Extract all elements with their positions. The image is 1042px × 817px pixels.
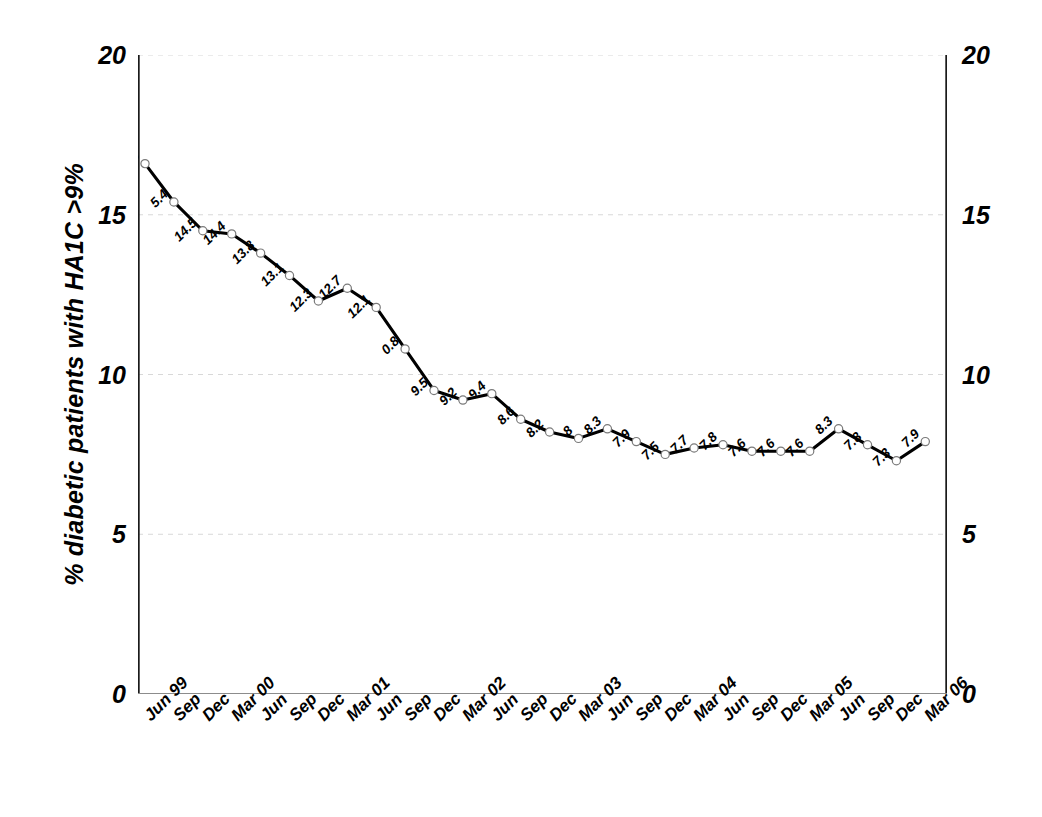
data-point-label: 12.3 [286,285,316,315]
data-point-label: 9.2 [436,384,460,408]
y-tick-label-right-20: 20 [962,43,990,68]
data-point-label: 8.2 [523,416,547,440]
data-point-marker [835,425,843,433]
data-point-marker [488,390,496,398]
y-tick-label-left-10: 10 [78,363,126,388]
data-point-label: 14.5 [171,215,201,245]
data-point-marker [401,345,409,353]
x-axis-label: Sep [748,690,782,724]
data-point-label: 5.4 [147,186,171,210]
x-axis-label: Sep [401,690,435,724]
data-point-label: 7.6 [725,435,749,459]
data-point-marker [863,441,871,449]
data-point-marker [141,160,149,168]
data-point-marker [603,425,611,433]
plot-area: 16.65.414.514.413.813.112.312.712.10.89.… [138,55,947,694]
data-point-marker [574,434,582,442]
data-point-label: 7.8 [696,429,720,453]
gridlines [138,55,947,694]
data-point-marker [343,284,351,292]
x-axis-label: Dec [777,690,811,724]
data-point-marker [459,396,467,404]
data-point-marker [228,230,236,238]
x-axis-label: Dec [199,690,233,724]
y-tick-label-right-10: 10 [962,363,990,388]
data-point-label: 7.9 [610,426,634,450]
data-point-marker [170,198,178,206]
x-axis-label: Sep [517,690,551,724]
x-axis-label: Dec [546,690,580,724]
data-point-marker [632,437,640,445]
data-point-label: 8.6 [494,403,518,427]
data-point-marker [921,437,929,445]
data-point-marker [661,450,669,458]
data-point-marker [372,303,380,311]
data-point-label: 7.6 [754,435,778,459]
x-axis-label: Dec [314,690,348,724]
x-axis-label: Dec [892,690,926,724]
x-axis-label: Sep [864,690,898,724]
y-tick-label-right-15: 15 [962,203,990,228]
data-point-label: 8.3 [581,413,605,437]
data-point-marker [430,386,438,394]
data-point-label: 12.1 [344,292,373,321]
chart-container: % diabetic patients with HA1C >9% 20 15 … [0,0,1042,817]
y-tick-label-left-20: 20 [78,43,126,68]
data-point-marker [806,447,814,455]
data-point-label: 7.6 [783,435,807,459]
plot-svg: 16.65.414.514.413.813.112.312.712.10.89.… [138,55,947,694]
data-point-labels: 16.65.414.514.413.813.112.312.712.10.89.… [138,148,923,469]
y-tick-label-left-5: 5 [78,522,126,547]
data-point-label: 14.4 [200,218,230,248]
x-axis-label: Dec [661,690,695,724]
data-point-label: 9.5 [407,375,431,399]
x-axis-label: Dec [430,690,464,724]
data-point-marker [285,271,293,279]
x-axis-labels: Jun 99SepDecMar 00JunSepDecMar 01JunSepD… [0,700,1042,817]
data-point-marker [517,415,525,423]
x-axis-label: Sep [632,690,666,724]
data-point-label: 13.1 [257,260,286,289]
data-point-marker [690,444,698,452]
data-point-label: 13.8 [229,237,259,267]
x-axis-label: Sep [286,690,320,724]
y-tick-label-left-15: 15 [78,203,126,228]
data-point-label: 7.5 [638,439,662,463]
data-point-marker [892,457,900,465]
data-point-label: 0.8 [378,333,402,357]
data-point-marker [546,428,554,436]
y-tick-label-right-5: 5 [962,522,976,547]
data-point-marker [257,249,265,257]
